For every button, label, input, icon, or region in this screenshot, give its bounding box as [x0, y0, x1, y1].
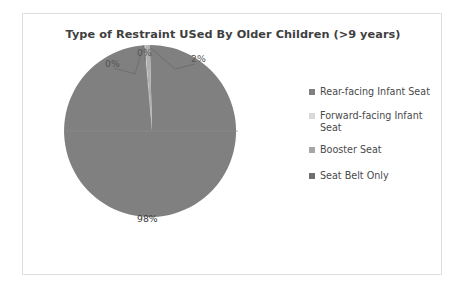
legend-swatch-icon: [309, 113, 315, 119]
chart-figure-frame: Type of Restraint USed By Older Children…: [22, 13, 442, 275]
legend-item-label: Seat Belt Only: [320, 170, 389, 183]
legend-item-forward-facing-infant-seat[interactable]: Forward-facing Infant Seat: [309, 110, 437, 135]
pie-chart-graphic: [57, 36, 247, 226]
legend-swatch-icon: [309, 173, 315, 179]
legend-item-seat-belt-only[interactable]: Seat Belt Only: [309, 170, 437, 183]
legend-swatch-icon: [309, 147, 315, 153]
pie-chart-plot-area: 0% 0% 2% 98% Rear-facing Infant Seat For…: [23, 14, 443, 276]
legend-item-label: Rear-facing Infant Seat: [320, 86, 430, 99]
data-label-forward-facing-infant-seat: 0%: [137, 47, 152, 58]
legend-item-label: Booster Seat: [320, 144, 382, 157]
chart-legend: Rear-facing Infant Seat Forward-facing I…: [309, 86, 437, 183]
data-label-seat-belt-only: 98%: [137, 213, 158, 224]
legend-item-rear-facing-infant-seat[interactable]: Rear-facing Infant Seat: [309, 86, 437, 99]
data-label-booster-seat: 2%: [191, 53, 206, 64]
legend-swatch-icon: [309, 89, 315, 95]
legend-item-label: Forward-facing Infant Seat: [320, 110, 437, 135]
data-label-rear-facing-infant-seat: 0%: [105, 58, 120, 69]
legend-item-booster-seat[interactable]: Booster Seat: [309, 144, 437, 157]
